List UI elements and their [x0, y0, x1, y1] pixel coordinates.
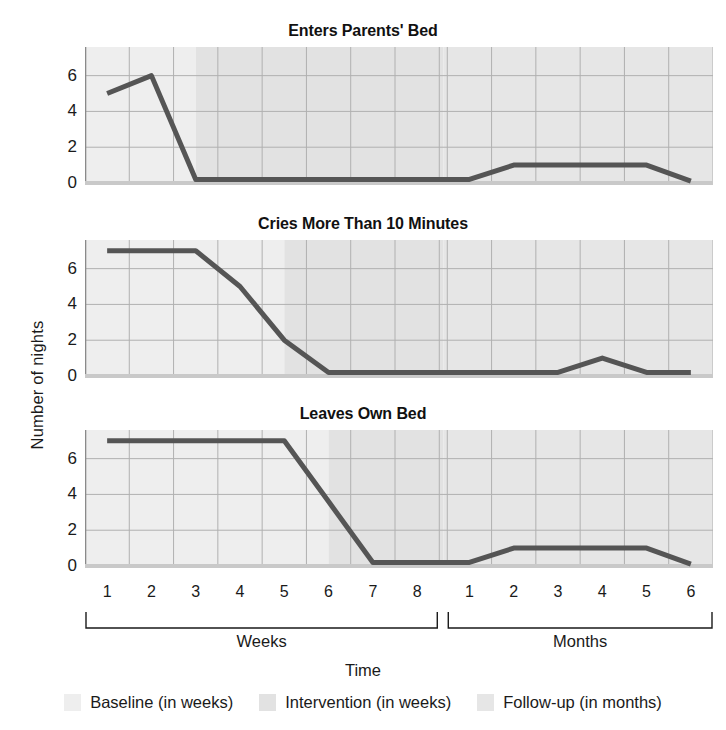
y-tick-label: 4 — [51, 485, 77, 502]
chart-panel: Cries More Than 10 Minutes0246 — [0, 215, 726, 390]
followup-swatch — [477, 694, 494, 711]
baseline-swatch — [64, 694, 81, 711]
x-tick-week: 7 — [361, 583, 385, 601]
followup-region — [443, 430, 713, 566]
bracket-months — [448, 612, 712, 628]
y-tick-label: 0 — [51, 367, 77, 384]
legend-label: Follow-up (in months) — [503, 693, 662, 712]
y-tick-label: 6 — [51, 260, 77, 277]
legend-label: Intervention (in weeks) — [285, 693, 451, 712]
x-tick-month: 4 — [590, 583, 614, 601]
bracket-weeks — [86, 612, 437, 628]
y-tick-label: 6 — [51, 67, 77, 84]
y-tick-label: 2 — [51, 138, 77, 155]
x-tick-week: 2 — [139, 583, 163, 601]
followup-region — [443, 240, 713, 376]
x-tick-week: 6 — [317, 583, 341, 601]
x-tick-week: 3 — [184, 583, 208, 601]
x-tick-month: 1 — [457, 583, 481, 601]
plot-area — [85, 240, 713, 376]
x-group-label-months: Months — [448, 632, 712, 651]
x-tick-week: 5 — [272, 583, 296, 601]
legend-item: Follow-up (in months) — [477, 693, 662, 712]
x-tick-week: 4 — [228, 583, 252, 601]
panel-title: Cries More Than 10 Minutes — [0, 215, 726, 233]
intervention-region — [196, 47, 444, 183]
x-axis: 12345678123456 Weeks Months Time — [0, 583, 726, 683]
x-group-label-weeks: Weeks — [86, 632, 437, 651]
intervention-swatch — [259, 694, 276, 711]
panel-title: Enters Parents' Bed — [0, 22, 726, 40]
plot-canvas — [85, 240, 713, 380]
y-tick-label: 2 — [51, 331, 77, 348]
baseline-region — [85, 47, 196, 183]
panel-title: Leaves Own Bed — [0, 405, 726, 423]
intervention-region — [329, 430, 444, 566]
x-tick-month: 2 — [502, 583, 526, 601]
x-tick-month: 6 — [679, 583, 703, 601]
legend-item: Baseline (in weeks) — [64, 693, 233, 712]
baseline-region — [85, 240, 284, 376]
plot-area — [85, 47, 713, 183]
y-tick-label: 6 — [51, 450, 77, 467]
chart-panel: Enters Parents' Bed0246 — [0, 22, 726, 197]
y-tick-label: 0 — [51, 174, 77, 191]
multiple-baseline-figure: Number of nights Enters Parents' Bed0246… — [0, 0, 726, 730]
phase-brackets — [0, 608, 726, 634]
x-axis-title: Time — [0, 661, 726, 680]
legend-item: Intervention (in weeks) — [259, 693, 451, 712]
plot-canvas — [85, 430, 713, 570]
chart-panel: Leaves Own Bed0246 — [0, 405, 726, 580]
x-tick-month: 3 — [546, 583, 570, 601]
y-tick-label: 4 — [51, 295, 77, 312]
x-tick-week: 8 — [405, 583, 429, 601]
x-tick-week: 1 — [95, 583, 119, 601]
plot-canvas — [85, 47, 713, 187]
legend: Baseline (in weeks)Intervention (in week… — [0, 693, 726, 712]
legend-label: Baseline (in weeks) — [90, 693, 233, 712]
y-tick-label: 4 — [51, 102, 77, 119]
y-tick-label: 2 — [51, 521, 77, 538]
plot-area — [85, 430, 713, 566]
y-tick-label: 0 — [51, 557, 77, 574]
followup-region — [443, 47, 713, 183]
x-tick-month: 5 — [635, 583, 659, 601]
